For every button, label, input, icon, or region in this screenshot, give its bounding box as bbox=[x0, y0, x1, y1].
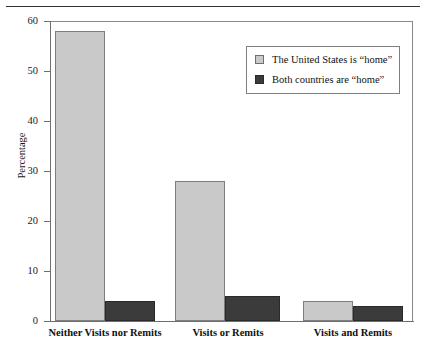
y-axis-label-60: 60 bbox=[8, 16, 38, 27]
bar-chart-figure: 60 50 40 30 20 10 0 Percentage Neither V… bbox=[0, 0, 426, 348]
legend-item-both-home: Both countries are “home” bbox=[255, 74, 391, 85]
y-axis-tick bbox=[44, 71, 50, 72]
legend-item-us-home: The United States is “home” bbox=[255, 54, 391, 65]
bar-neither-visits-nor-remits-us-home bbox=[55, 31, 105, 321]
legend-label-both-home: Both countries are “home” bbox=[272, 74, 384, 85]
bar-visits-and-remits-us-home bbox=[303, 301, 353, 321]
y-axis-tick bbox=[44, 321, 50, 322]
y-axis-label-10: 10 bbox=[8, 266, 38, 277]
y-axis-tick bbox=[44, 271, 50, 272]
top-horizontal-rule bbox=[6, 6, 420, 7]
bar-visits-or-remits-both-home bbox=[225, 296, 280, 321]
legend-swatch-dark-icon bbox=[255, 75, 264, 84]
bar-neither-visits-nor-remits-both-home bbox=[105, 301, 155, 321]
y-axis-tick bbox=[44, 121, 50, 122]
cropped-caption-fragment bbox=[70, 0, 190, 5]
y-axis-title: Percentage bbox=[16, 96, 27, 216]
y-axis-label-20: 20 bbox=[8, 216, 38, 227]
legend-swatch-light-icon bbox=[255, 55, 264, 64]
x-axis-label-visits-and-remits: Visits and Remits bbox=[295, 327, 411, 339]
legend-label-us-home: The United States is “home” bbox=[272, 54, 392, 65]
x-axis-label-visits-or-remits: Visits or Remits bbox=[170, 327, 286, 339]
bar-visits-or-remits-us-home bbox=[175, 181, 225, 321]
y-axis-tick bbox=[44, 21, 50, 22]
bar-visits-and-remits-both-home bbox=[353, 306, 403, 321]
y-axis-tick bbox=[44, 221, 50, 222]
x-axis-line bbox=[50, 321, 414, 322]
x-axis-label-neither-visits-nor-remits: Neither Visits nor Remits bbox=[33, 327, 177, 339]
y-axis-line bbox=[50, 21, 51, 322]
y-axis-tick bbox=[44, 171, 50, 172]
y-axis-label-0: 0 bbox=[8, 316, 38, 327]
y-axis-label-50: 50 bbox=[8, 66, 38, 77]
legend: The United States is “home” Both countri… bbox=[246, 46, 400, 94]
